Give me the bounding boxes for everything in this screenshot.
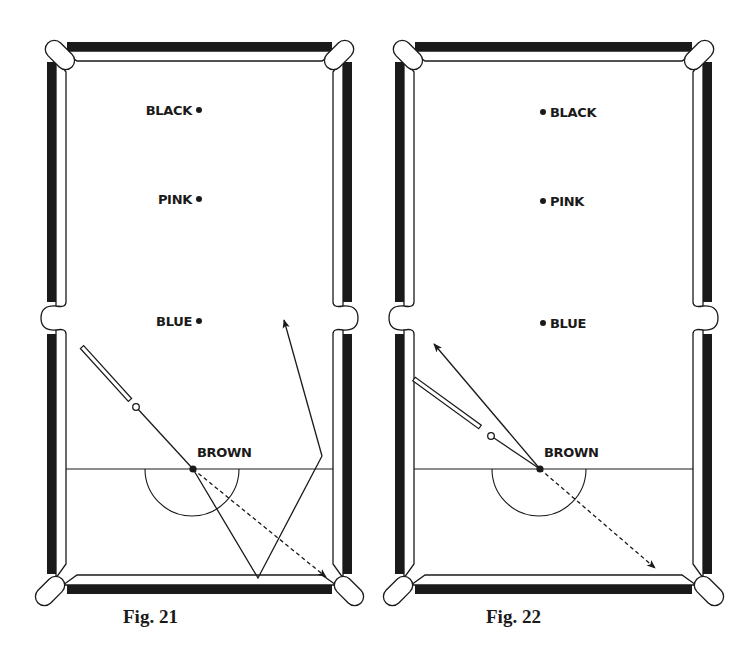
right-upper-rail <box>343 62 352 302</box>
top-cushion <box>63 51 336 61</box>
pink-label: PINK <box>158 192 193 207</box>
pink-ball-spot <box>540 198 546 204</box>
bottom-left-pocket <box>380 573 417 610</box>
object-ball-path <box>540 469 655 568</box>
bottom-rail <box>67 585 332 594</box>
cue-stick <box>80 346 131 402</box>
bottom-right-pocket <box>331 573 368 610</box>
baulk-d-semicircle <box>492 469 586 516</box>
left-upper-cushion <box>56 58 66 307</box>
top-rail <box>67 42 332 51</box>
cue-stick <box>413 377 482 429</box>
brown-label: BROWN <box>197 445 252 460</box>
blue-ball-spot <box>196 318 202 324</box>
left-lower-cushion <box>56 330 66 579</box>
right-lower-rail <box>343 334 352 574</box>
bottom-left-pocket <box>32 573 69 610</box>
bottom-cushion <box>411 575 696 585</box>
left-lower-rail <box>47 334 56 574</box>
bottom-rail <box>415 585 692 594</box>
left-upper-cushion <box>404 58 414 307</box>
pink-ball-spot <box>196 196 202 202</box>
pocket-shape <box>331 573 368 610</box>
right-lower-cushion <box>333 330 343 579</box>
right-upper-cushion <box>333 58 343 307</box>
left-upper-rail <box>395 62 404 302</box>
black-label: BLACK <box>550 105 598 120</box>
left-middle-pocket <box>389 306 404 330</box>
right-upper-cushion <box>693 58 703 307</box>
top-rail <box>415 42 692 51</box>
blue-label: BLUE <box>550 316 586 331</box>
pink-label: PINK <box>550 194 585 209</box>
cue-ball-path <box>136 407 193 469</box>
black-ball-spot <box>196 107 202 113</box>
pocket-shape <box>32 573 69 610</box>
left-lower-rail <box>395 334 404 574</box>
cue-ball-path-arrow <box>284 320 322 456</box>
blue-label: BLUE <box>156 314 192 329</box>
snooker-diagrams: BLACKPINKBLUEBROWN BLACKPINKBLUEBROWN <box>0 0 735 661</box>
right-middle-pocket <box>343 306 358 330</box>
cue-ball <box>488 433 495 440</box>
cue-ball <box>133 404 140 411</box>
right-lower-rail <box>703 334 712 574</box>
left-middle-pocket <box>41 306 56 330</box>
figure-22-table: BLACKPINKBLUEBROWN <box>380 37 728 610</box>
cue-ball-path <box>193 456 322 578</box>
right-upper-rail <box>703 62 712 302</box>
top-cushion <box>411 51 696 61</box>
pocket-shape <box>380 573 417 610</box>
black-label: BLACK <box>146 103 194 118</box>
pocket-shape <box>691 573 728 610</box>
bottom-right-pocket <box>691 573 728 610</box>
figure-21-table: BLACKPINKBLUEBROWN <box>32 37 368 610</box>
left-upper-rail <box>47 62 56 302</box>
bottom-cushion <box>63 575 336 585</box>
figure-22-caption: Fig. 22 <box>486 606 541 628</box>
baulk-d-semicircle <box>145 469 239 516</box>
brown-label: BROWN <box>544 445 599 460</box>
right-middle-pocket <box>703 306 718 330</box>
left-lower-cushion <box>404 330 414 579</box>
right-lower-cushion <box>693 330 703 579</box>
black-ball-spot <box>540 109 546 115</box>
figure-21-caption: Fig. 21 <box>123 606 178 628</box>
blue-ball-spot <box>540 320 546 326</box>
